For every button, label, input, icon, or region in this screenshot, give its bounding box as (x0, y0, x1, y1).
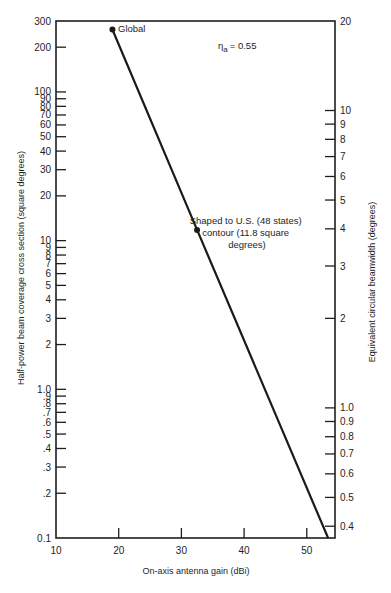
y-tick-label: .3 (43, 462, 52, 473)
y2-tick-label: 4 (340, 223, 346, 234)
efficiency-label: ηa= 0.55 (218, 40, 256, 54)
global-label: Global (118, 23, 145, 34)
y-tick-label: 50 (40, 131, 52, 142)
y2-tick-label: 0.5 (340, 492, 354, 503)
y2-tick-label: 0.7 (340, 448, 354, 459)
y-tick-label: 200 (34, 42, 51, 53)
chart: 300200100908070605040302010987654321.0.9… (0, 0, 391, 593)
y2-tick-label: 5 (340, 195, 346, 206)
y2-axis-title: Equivalent circular beamwidth (degrees) (367, 202, 377, 363)
x-tick-label: 40 (239, 545, 251, 556)
y-tick-label: .5 (43, 429, 52, 440)
y2-tick-label: 7 (340, 151, 346, 162)
y2-tick-label: 6 (340, 171, 346, 182)
right-y-axis-ticks: 2010987654321.00.90.80.70.60.50.4 (325, 16, 354, 532)
y2-tick-label: 0.9 (340, 416, 354, 427)
data-point-marker (109, 26, 115, 32)
y2-tick-label: 2 (340, 313, 346, 324)
y-tick-label: 20 (40, 190, 52, 201)
data-point-marker (194, 227, 200, 233)
y-tick-label: 0.1 (37, 533, 51, 544)
y2-tick-label: 0.4 (340, 521, 354, 532)
x-tick-label: 50 (301, 545, 313, 556)
x-axis-title: On-axis antenna gain (dBi) (142, 566, 249, 576)
y2-tick-label: 8 (340, 134, 346, 145)
y-tick-label: 30 (40, 164, 52, 175)
y-tick-label: 300 (34, 16, 51, 27)
y2-tick-label: 0.8 (340, 431, 354, 442)
y-tick-label: 60 (40, 119, 52, 130)
y-tick-label: 4 (45, 294, 51, 305)
y2-tick-label: 20 (340, 16, 352, 27)
y-tick-label: .6 (43, 417, 52, 428)
left-y-axis-ticks: 300200100908070605040302010987654321.0.9… (34, 16, 66, 544)
y-tick-label: 2 (45, 339, 51, 350)
x-tick-label: 20 (113, 545, 125, 556)
y-tick-label: 6 (45, 268, 51, 279)
x-tick-label: 10 (50, 545, 62, 556)
y-tick-label: .4 (43, 443, 52, 454)
y2-tick-label: 9 (340, 119, 346, 130)
y2-tick-label: 1.0 (340, 402, 354, 413)
y-tick-label: 40 (40, 146, 52, 157)
y-axis-title: Half-power beam coverage cross section (… (16, 151, 26, 385)
shaped-label: Shaped to U.S. (48 states) contour (11.8… (190, 215, 305, 250)
y2-tick-label: 0.6 (340, 468, 354, 479)
x-tick-label: 30 (176, 545, 188, 556)
x-axis-ticks: 1020304050 (50, 528, 312, 556)
y-tick-label: 3 (45, 313, 51, 324)
y-tick-label: 5 (45, 280, 51, 291)
y2-tick-label: 3 (340, 261, 346, 272)
y-tick-label: .2 (43, 488, 52, 499)
y2-tick-label: 10 (340, 105, 352, 116)
data-line (112, 30, 328, 539)
plot-frame (56, 21, 335, 538)
